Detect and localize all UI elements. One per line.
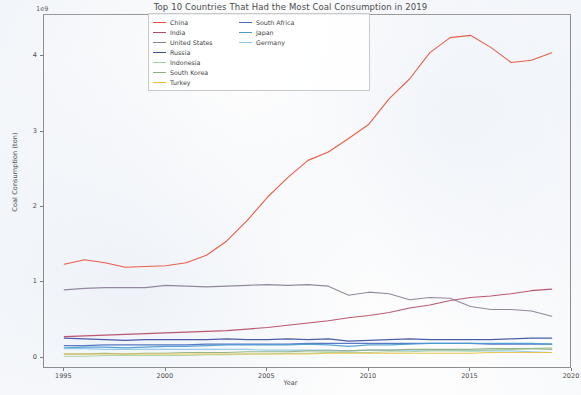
x-axis-title: Year — [0, 379, 581, 387]
series-line — [64, 285, 551, 317]
legend-entry-south-africa[interactable]: South Africa — [239, 17, 309, 27]
legend-entry-germany[interactable]: Germany — [239, 37, 309, 47]
y-axis-tick-label: 3 — [21, 127, 37, 135]
legend-label: China — [170, 19, 188, 26]
legend-label: United States — [170, 39, 213, 46]
legend-label: South Korea — [170, 69, 208, 76]
legend-label: Germany — [256, 39, 285, 46]
x-axis-tick-mark — [469, 368, 470, 371]
legend-swatch-icon — [153, 82, 166, 83]
chart-figure: Top 10 Countries That Had the Most Coal … — [0, 0, 581, 395]
legend-swatch-icon — [239, 42, 252, 43]
legend-swatch-icon — [153, 32, 166, 33]
legend-label: Turkey — [170, 79, 191, 86]
x-axis-tick-label: 2010 — [353, 372, 383, 380]
legend-entry-united-states[interactable]: United States — [153, 37, 239, 47]
legend-swatch-icon — [153, 22, 166, 23]
page-title: Top 10 Countries That Had the Most Coal … — [0, 2, 581, 12]
x-axis-tick-mark — [368, 368, 369, 371]
legend-column: South AfricaJapanGermany — [239, 17, 309, 57]
y-axis-tick-label: 1 — [21, 277, 37, 285]
legend-entry-china[interactable]: China — [153, 17, 239, 27]
legend-swatch-icon — [153, 42, 166, 43]
legend-column: ChinaIndiaUnited StatesRussia — [153, 17, 239, 57]
x-axis-tick-mark — [571, 368, 572, 371]
x-axis-tick-label: 2020 — [556, 372, 581, 380]
series-line — [64, 289, 551, 336]
x-axis-tick-mark — [266, 368, 267, 371]
x-axis-tick-label: 2005 — [251, 372, 281, 380]
legend-swatch-icon — [153, 52, 166, 53]
legend-swatch-icon — [153, 72, 166, 73]
legend-entry-india[interactable]: India — [153, 27, 239, 37]
chart-legend: ChinaIndiaUnited StatesRussiaSouth Afric… — [148, 13, 370, 91]
legend-entry-south-korea[interactable]: South Korea — [153, 67, 215, 77]
series-line — [64, 338, 551, 341]
legend-swatch-icon — [239, 32, 252, 33]
x-axis-tick-label: 2015 — [454, 372, 484, 380]
y-axis-title: Coal Consumption (ton) — [11, 107, 19, 237]
legend-label: India — [170, 29, 185, 36]
legend-entry-indonesia[interactable]: Indonesia — [153, 57, 215, 67]
legend-label: Japan — [256, 29, 274, 36]
y-axis-tick-label: 2 — [21, 202, 37, 210]
legend-entry-turkey[interactable]: Turkey — [153, 77, 215, 87]
legend-column: IndonesiaSouth KoreaTurkey — [153, 57, 215, 87]
legend-label: Russia — [170, 49, 190, 56]
y-axis-exponent-label: 1e9 — [36, 5, 48, 13]
legend-swatch-icon — [239, 22, 252, 23]
legend-label: South Africa — [256, 19, 294, 26]
x-axis-tick-mark — [63, 368, 64, 371]
y-axis-tick-label: 0 — [21, 353, 37, 361]
legend-entry-russia[interactable]: Russia — [153, 47, 239, 57]
legend-swatch-icon — [153, 62, 166, 63]
legend-entry-japan[interactable]: Japan — [239, 27, 309, 37]
x-axis-tick-mark — [165, 368, 166, 371]
legend-label: Indonesia — [170, 59, 200, 66]
x-axis-tick-label: 1995 — [48, 372, 78, 380]
y-axis-tick-label: 4 — [21, 51, 37, 59]
x-axis-tick-label: 2000 — [150, 372, 180, 380]
